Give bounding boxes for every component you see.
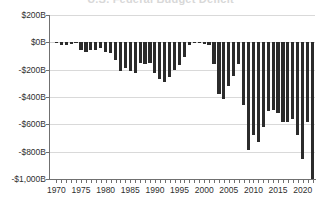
x-axis-tick-mark [160, 180, 161, 183]
bar [60, 42, 63, 45]
x-axis-tick-mark [76, 180, 77, 183]
x-axis-tick-mark [199, 180, 200, 183]
x-axis-tick-mark [61, 180, 62, 183]
bar [203, 42, 206, 44]
bar [173, 42, 176, 70]
x-axis-tick-mark [244, 180, 245, 183]
x-axis-tick-label: 2020 [293, 185, 312, 195]
bar [163, 42, 166, 82]
bar [94, 42, 97, 50]
x-axis-tick-mark [91, 180, 92, 183]
x-axis-tick-mark [194, 180, 195, 183]
x-axis-tick-mark [298, 180, 299, 183]
x-axis-tick-mark [120, 180, 121, 183]
x-axis-tick-mark [170, 180, 171, 183]
x-axis-tick-mark [150, 180, 151, 183]
bar [311, 42, 314, 179]
bar [296, 42, 299, 135]
bar [129, 42, 132, 71]
x-axis-tick-mark [66, 180, 67, 183]
bar [99, 42, 102, 48]
x-axis-tick-mark [263, 180, 264, 183]
bar [143, 42, 146, 63]
x-axis-tick-mark [234, 180, 235, 183]
bar [109, 42, 112, 53]
x-axis-tick-mark [308, 180, 309, 183]
y-axis-tick-mark [46, 70, 49, 71]
x-axis-tick-mark [249, 180, 250, 183]
bar [217, 42, 220, 94]
bar [237, 42, 240, 64]
bar [212, 42, 215, 64]
y-axis-tick-label: $0B [1, 37, 46, 47]
x-axis-tick-mark [140, 180, 141, 183]
x-axis-tick-label: 2005 [219, 185, 238, 195]
bar [79, 42, 82, 49]
x-axis-tick-mark [86, 180, 87, 183]
chart-figure: U.S. Federal Budget Deficit $200B$0B-$20… [0, 0, 321, 201]
bar [267, 42, 270, 111]
x-axis-tick-mark [116, 180, 117, 183]
x-axis-tick-mark [283, 180, 284, 183]
x-axis-tick-mark [293, 180, 294, 183]
bar [193, 42, 196, 43]
bar [232, 42, 235, 76]
bar [70, 42, 73, 44]
x-axis-tick-mark [214, 180, 215, 183]
bar [114, 42, 117, 59]
y-axis-tick-mark [46, 15, 49, 16]
bar [276, 42, 279, 113]
x-axis-tick-label: 2010 [244, 185, 263, 195]
x-axis-tick-mark [96, 180, 97, 183]
x-axis-tick-mark [125, 180, 126, 183]
x-axis-tick-mark [130, 180, 131, 183]
y-axis-labels: $200B$0B-$200B-$400B-$600B-$800B-$1,000B [0, 0, 46, 201]
x-axis-tick-mark [219, 180, 220, 183]
x-axis-tick-mark [239, 180, 240, 183]
x-axis-tick-mark [209, 180, 210, 183]
y-axis-tick-label: -$1,000B [1, 174, 46, 184]
bar [222, 42, 225, 98]
bar [139, 42, 142, 63]
bar [262, 42, 265, 127]
x-axis-tick-mark [71, 180, 72, 183]
bar [134, 42, 137, 72]
x-axis-tick-mark [278, 180, 279, 183]
x-axis-tick-mark [184, 180, 185, 183]
x-axis-tick-mark [101, 180, 102, 183]
bar [281, 42, 284, 122]
bar [178, 42, 181, 64]
x-axis-tick-label: 1985 [121, 185, 140, 195]
bar [272, 42, 275, 110]
bar [291, 42, 294, 119]
bar [188, 42, 191, 45]
x-axis-tick-mark [56, 180, 57, 183]
chart-title: U.S. Federal Budget Deficit [0, 0, 321, 5]
x-axis-tick-mark [229, 180, 230, 183]
x-axis-tick-mark [189, 180, 190, 183]
y-axis-tick-label: -$200B [1, 65, 46, 75]
bar [55, 42, 58, 43]
x-axis-tick-label: 1995 [170, 185, 189, 195]
x-axis-tick-mark [303, 180, 304, 183]
bar [153, 42, 156, 72]
bar [198, 42, 201, 43]
y-axis-tick-mark [46, 97, 49, 98]
x-axis-tick-mark [165, 180, 166, 183]
y-axis-tick-mark [46, 42, 49, 43]
bar [247, 42, 250, 150]
x-axis-tick-mark [313, 180, 314, 183]
bar [257, 42, 260, 142]
bar [89, 42, 92, 49]
x-axis-tick-label: 1975 [72, 185, 91, 195]
x-axis-tick-mark [258, 180, 259, 183]
bar [252, 42, 255, 135]
y-axis-line [49, 15, 50, 180]
y-axis-tick-label: -$800B [1, 147, 46, 157]
y-axis-tick-mark [46, 152, 49, 153]
x-axis-tick-mark [204, 180, 205, 183]
x-axis-tick-label: 2000 [195, 185, 214, 195]
x-axis-tick-mark [288, 180, 289, 183]
x-axis-tick-label: 1990 [145, 185, 164, 195]
bar [301, 42, 304, 159]
